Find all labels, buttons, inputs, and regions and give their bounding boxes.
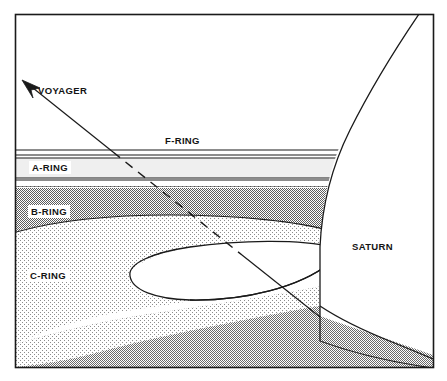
a-ring-label: A-RING xyxy=(29,161,71,174)
saturn-label: SATURN xyxy=(352,241,393,252)
diagram-canvas xyxy=(0,0,447,381)
b-ring-label: B-RING xyxy=(28,205,70,218)
saturn-rings-diagram: VOYAGER F-RING A-RING B-RING C-RING SATU… xyxy=(0,0,447,381)
c-ring-label: C-RING xyxy=(27,269,69,282)
ring-gap-strip xyxy=(16,180,337,186)
f-ring-label: F-RING xyxy=(165,135,200,146)
voyager-label: VOYAGER xyxy=(38,85,87,96)
